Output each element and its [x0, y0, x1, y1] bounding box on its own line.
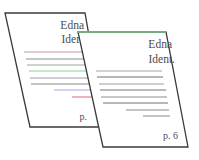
documents-illustration: Edna Ident. p. Edna Ident. p. 6 [0, 0, 199, 160]
back-page-number: p. [80, 111, 88, 122]
front-page: Edna Ident. p. 6 [78, 32, 188, 147]
front-page-title-line1: Edna [148, 38, 172, 50]
front-page-number: p. 6 [163, 130, 178, 141]
front-page-title-line2: Ident. [148, 53, 175, 65]
back-page-title-line1: Edna [60, 19, 84, 31]
